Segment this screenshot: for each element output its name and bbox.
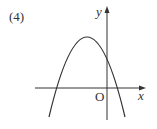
parabola-graph <box>0 0 157 129</box>
parabola-curve <box>49 37 125 117</box>
y-axis-arrow-icon <box>105 6 110 13</box>
y-axis-label: y <box>96 5 102 18</box>
x-axis-label: x <box>138 89 144 102</box>
origin-label: O <box>95 90 104 103</box>
